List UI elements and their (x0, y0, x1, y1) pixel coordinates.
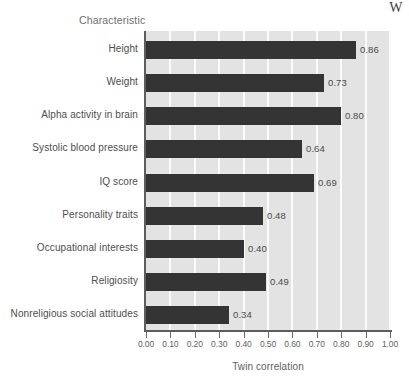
category-label: Religiosity (91, 275, 138, 286)
x-axis-tick (244, 332, 245, 338)
x-axis-tick (146, 332, 147, 338)
bar (146, 41, 356, 59)
x-axis-tick (366, 332, 367, 338)
x-axis-title: Twin correlation (232, 361, 304, 372)
x-axis-tick (317, 332, 318, 338)
bar (146, 140, 302, 158)
x-axis-tick (170, 332, 171, 338)
page-corner-text-artifact: W (389, 1, 403, 15)
x-axis-tick (219, 332, 220, 338)
bar-value-label: 0.73 (328, 77, 347, 88)
x-axis-tick-label: 0.70 (309, 339, 325, 349)
x-axis-tick-label: 0.60 (284, 339, 300, 349)
bar-value-label: 0.49 (270, 276, 289, 287)
bar-value-label: 0.48 (267, 210, 286, 221)
bar-value-label: 0.40 (248, 243, 267, 254)
x-axis-tick-label: 0.20 (187, 339, 203, 349)
x-axis-tick-label: 0.00 (138, 339, 154, 349)
x-axis-tick (195, 332, 196, 338)
category-label: Weight (106, 76, 138, 87)
gridline (365, 31, 367, 330)
category-label: Personality traits (62, 209, 138, 220)
category-label: Height (108, 43, 138, 54)
bar (146, 74, 324, 92)
bar (146, 107, 341, 125)
x-axis-tick-label: 0.50 (260, 339, 276, 349)
category-axis-title: Characteristic (79, 14, 145, 26)
x-axis-tick (341, 332, 342, 338)
category-label: Alpha activity in brain (41, 109, 138, 120)
bar (146, 273, 266, 291)
category-label: Nonreligious social attitudes (11, 308, 138, 319)
category-label: IQ score (99, 176, 138, 187)
bar-value-label: 0.64 (306, 143, 325, 154)
twin-correlation-bar-chart: W Characteristic 0.000.100.200.300.400.5… (0, 0, 409, 391)
category-label: Systolic blood pressure (32, 142, 138, 153)
gridline (389, 31, 391, 330)
bar (146, 240, 244, 258)
bar-value-label: 0.80 (345, 110, 364, 121)
x-axis-tick-label: 0.80 (333, 339, 349, 349)
bar (146, 207, 263, 225)
x-axis-tick-label: 0.40 (236, 339, 252, 349)
x-axis-tick (390, 332, 391, 338)
category-label: Occupational interests (37, 242, 138, 253)
bar-value-label: 0.34 (233, 309, 252, 320)
bar (146, 174, 314, 192)
x-axis-tick-label: 1.00 (382, 339, 398, 349)
x-axis-tick-label: 0.90 (358, 339, 374, 349)
x-axis-tick-label: 0.10 (162, 339, 178, 349)
bar-value-label: 0.86 (360, 44, 379, 55)
x-axis-tick (292, 332, 293, 338)
bar-value-label: 0.69 (318, 177, 337, 188)
x-axis-tick-label: 0.30 (211, 339, 227, 349)
x-axis-tick (268, 332, 269, 338)
bar (146, 306, 229, 324)
